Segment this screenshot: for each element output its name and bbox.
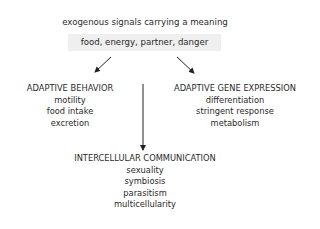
node-heading: ADAPTIVE GENE EXPRESSION xyxy=(160,83,310,95)
node-item: sexuality xyxy=(45,165,245,177)
node-item: differentiation xyxy=(160,95,310,107)
node-item: stringent response xyxy=(160,106,310,118)
node-heading: ADAPTIVE BEHAVIOR xyxy=(10,83,130,95)
node-item: excretion xyxy=(10,118,130,130)
node-adaptive-gene-expression: ADAPTIVE GENE EXPRESSION differentiation… xyxy=(160,83,310,129)
node-item: motility xyxy=(10,95,130,107)
node-adaptive-behavior: ADAPTIVE BEHAVIOR motility food intake e… xyxy=(10,83,130,129)
arrow-to-behavior xyxy=(95,57,111,72)
arrow-to-gene-expression xyxy=(177,57,194,73)
node-item: metabolism xyxy=(160,118,310,130)
node-item: parasitism xyxy=(45,188,245,200)
node-item: food intake xyxy=(10,106,130,118)
node-item: multicellularity xyxy=(45,199,245,211)
node-heading: INTERCELLULAR COMMUNICATION xyxy=(45,153,245,165)
node-intercellular-communication: INTERCELLULAR COMMUNICATION sexuality sy… xyxy=(45,153,245,211)
node-item: symbiosis xyxy=(45,176,245,188)
